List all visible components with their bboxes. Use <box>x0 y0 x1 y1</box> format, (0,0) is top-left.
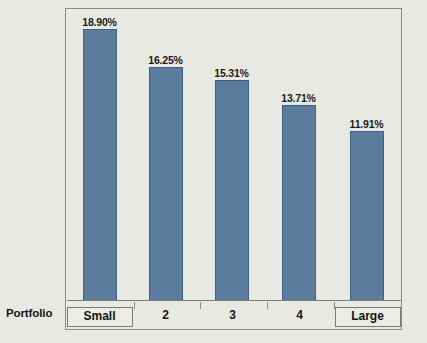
bar-value-label-2: 15.31% <box>206 67 258 79</box>
bar-0[interactable] <box>83 29 117 301</box>
bar-3[interactable] <box>282 105 316 301</box>
bar-value-label-0: 18.90% <box>74 16 126 28</box>
x-axis-label-2: 2 <box>133 307 199 324</box>
bar-group-1: 16.25% <box>149 10 183 301</box>
bar-group-0: 18.90% <box>83 10 117 301</box>
x-axis-label-small[interactable]: Small <box>67 307 133 327</box>
bar-group-3: 13.71% <box>282 10 316 301</box>
bar-2[interactable] <box>215 80 249 301</box>
x-axis-line <box>67 300 401 301</box>
x-axis-label-3: 3 <box>200 307 266 324</box>
bar-value-label-4: 11.91% <box>341 118 393 130</box>
bar-group-4: 11.91% <box>350 10 384 301</box>
footer-caption <box>4 334 424 343</box>
bar-1[interactable] <box>149 67 183 301</box>
x-axis-label-large[interactable]: Large <box>335 307 401 327</box>
x-axis-category-row: Small 2 3 4 Large <box>67 302 401 329</box>
bar-group-2: 15.31% <box>215 10 249 301</box>
bar-4[interactable] <box>350 131 384 301</box>
bar-value-label-1: 16.25% <box>140 54 192 66</box>
x-axis-label-4: 4 <box>267 307 333 324</box>
bar-value-label-3: 13.71% <box>273 92 325 104</box>
plot-area: 18.90% 16.25% 15.31% 13.71% 11.91% <box>67 10 401 301</box>
x-axis-title: Portfolio <box>6 307 52 319</box>
